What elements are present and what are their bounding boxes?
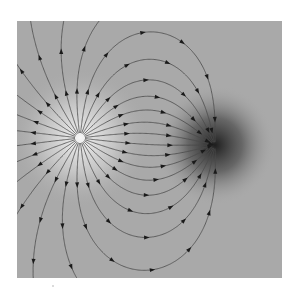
- dipole-field-figure: [17, 21, 282, 278]
- arrow-icon: [60, 223, 64, 229]
- arrow-icon: [83, 224, 89, 231]
- arrow-icon: [207, 209, 212, 215]
- arrow-icon: [205, 74, 211, 81]
- arrow-icon: [109, 257, 116, 263]
- arrow-icon: [18, 67, 24, 74]
- arrow-icon: [69, 264, 75, 271]
- arrow-icon: [154, 95, 160, 100]
- positive-charge-glow: [17, 68, 150, 208]
- arrow-icon: [168, 204, 175, 210]
- stray-dot: [52, 285, 54, 287]
- arrow-icon: [82, 45, 88, 52]
- arrow-icon: [37, 54, 43, 60]
- arrow-icon: [127, 208, 134, 214]
- arrow-icon: [165, 60, 172, 66]
- arrow-icon: [144, 235, 150, 239]
- arrow-icon: [143, 78, 149, 82]
- arrow-icon: [124, 62, 131, 68]
- field-lines-plot: [17, 21, 282, 278]
- arrow-icon: [59, 48, 63, 54]
- arrow-icon: [38, 217, 43, 223]
- arrow-icon: [144, 193, 150, 197]
- arrow-icon: [18, 203, 24, 210]
- arrow-icon: [31, 259, 35, 265]
